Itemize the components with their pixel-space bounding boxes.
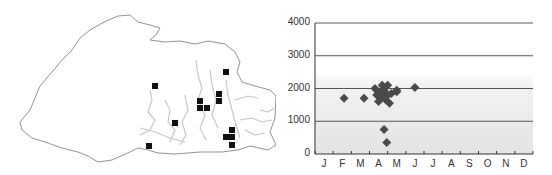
x-tick-label: A	[372, 158, 386, 169]
x-tick-label: F	[335, 158, 349, 169]
map-marker	[229, 142, 235, 148]
map-marker	[146, 143, 152, 149]
map-marker	[216, 98, 222, 104]
distribution-map	[0, 0, 276, 175]
map-marker	[152, 83, 158, 89]
map-marker	[197, 98, 203, 104]
x-tick-label: M	[353, 158, 367, 169]
map-svg	[0, 0, 276, 175]
map-marker	[223, 69, 229, 75]
y-tick-label: 2000	[276, 82, 310, 93]
map-marker	[229, 134, 235, 140]
map-marker	[197, 105, 203, 111]
map-marker	[223, 134, 229, 140]
x-tick-label: N	[499, 158, 513, 169]
y-tick-label: 3000	[276, 49, 310, 60]
map-marker	[216, 91, 222, 97]
x-tick-label: S	[462, 158, 476, 169]
x-tick-label: J	[426, 158, 440, 169]
x-tick-label: O	[481, 158, 495, 169]
elevation-by-month-chart: 01000200030004000 JFMAMJJASOND	[276, 0, 552, 175]
y-tick-label: 0	[276, 147, 310, 158]
chart-svg	[276, 0, 552, 175]
x-tick-label: M	[390, 158, 404, 169]
map-marker	[229, 127, 235, 133]
map-marker	[204, 105, 210, 111]
y-tick-label: 1000	[276, 114, 310, 125]
x-tick-label: D	[517, 158, 531, 169]
x-tick-label: J	[408, 158, 422, 169]
plot-shading	[315, 72, 533, 154]
x-tick-label: A	[444, 158, 458, 169]
country-outline	[20, 15, 276, 162]
y-tick-label: 4000	[276, 16, 310, 27]
map-marker	[172, 120, 178, 126]
x-tick-label: J	[317, 158, 331, 169]
